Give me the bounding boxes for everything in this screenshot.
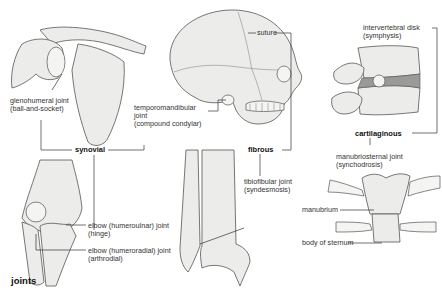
category-fibrous: fibrous	[248, 145, 273, 154]
label-line: (symphysis)	[363, 32, 420, 40]
label-temporomandibular: temporomandibular joint (compound condyl…	[134, 104, 202, 128]
shoulder-illustration	[11, 27, 146, 145]
label-glenohumeral: glenohumeral joint (ball-and-socket)	[10, 97, 69, 113]
ankle-illustration	[180, 150, 250, 286]
label-suture: suture	[257, 29, 277, 37]
label-humeroradial: elbow (humeroradial) joint (arthrodial)	[88, 247, 171, 263]
label-line: (syndesmosis)	[244, 186, 292, 194]
diagram-title: joints	[11, 275, 36, 286]
label-humeroulnar: elbow (humeroulnar) joint (hinge)	[88, 222, 169, 238]
label-line: (compound condylar)	[134, 120, 202, 128]
label-line: (ball-and-socket)	[10, 105, 69, 113]
label-line: suture	[257, 29, 277, 37]
label-manubriosternal: manubriosternal joint (synchodrosis)	[336, 153, 403, 169]
illustrations	[0, 0, 442, 290]
category-cartilaginous: cartilaginous	[355, 129, 402, 138]
sternum-illustration	[328, 174, 440, 242]
category-synovial: synovial	[75, 145, 105, 154]
label-line: (synchodrosis)	[336, 161, 403, 169]
label-intervertebral: intervertebral disk (symphysis)	[363, 24, 420, 40]
label-tibiofibular: tibiofibular joint (syndesmosis)	[244, 178, 292, 194]
label-line: (hinge)	[88, 230, 169, 238]
label-body-of-sternum: body of sternum	[302, 239, 354, 247]
label-line: (arthrodial)	[88, 255, 171, 263]
label-line: manubrium	[302, 206, 338, 214]
joints-diagram: glenohumeral joint (ball-and-socket) tem…	[0, 0, 442, 290]
elbow-illustration	[22, 160, 82, 286]
label-manubrium: manubrium	[302, 206, 338, 214]
label-line: body of sternum	[302, 239, 354, 247]
vertebrae-illustration	[332, 46, 420, 115]
